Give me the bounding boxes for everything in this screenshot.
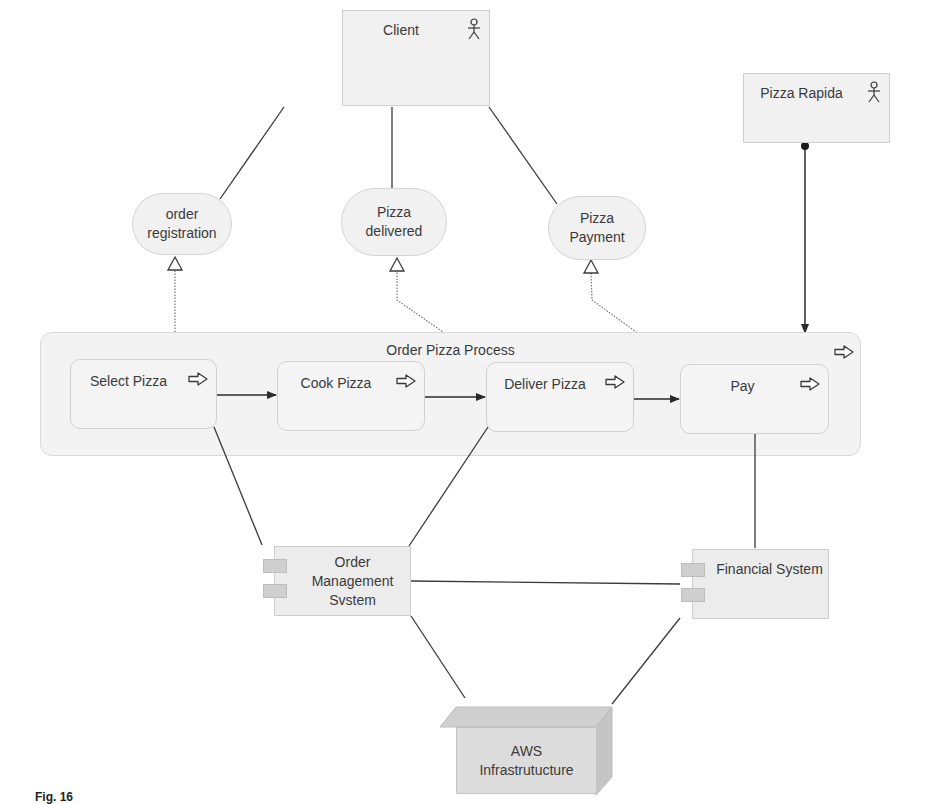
process-step-deliver-pizza[interactable]: Deliver Pizza [486, 362, 634, 432]
association-client-pizza-payment [489, 107, 557, 204]
process-arrow-icon [834, 345, 854, 359]
process-step-pay-label: Pay [681, 378, 804, 394]
component-order-mgmt-line3: Svstem [295, 591, 410, 610]
node-aws-infrastructure[interactable]: AWS Infrastrutucture [456, 727, 597, 794]
component-financial-system[interactable]: Financial System [692, 549, 829, 619]
actor-client-label: Client [343, 22, 459, 38]
process-step-deliver-pizza-label: Deliver Pizza [487, 376, 603, 392]
process-group-label: Order Pizza Process [41, 342, 860, 358]
service-pizza-delivered-line1: Pizza [366, 203, 423, 222]
service-pizza-delivered[interactable]: Pizza delivered [341, 188, 447, 256]
node-aws-line2: Infrastrutucture [479, 761, 573, 780]
actor-stick-figure-icon [867, 81, 881, 103]
service-pizza-payment-line1: Pizza [569, 209, 624, 228]
component-order-mgmt-line1: Order [295, 553, 410, 572]
actor-pizza-rapida[interactable]: Pizza Rapida [743, 73, 890, 143]
component-order-mgmt-line2: Management [295, 572, 410, 591]
process-step-select-pizza-label: Select Pizza [71, 373, 186, 389]
process-arrow-icon [605, 375, 625, 389]
component-order-management-system[interactable]: Order Management Svstem [274, 546, 411, 616]
service-pizza-payment-line2: Payment [569, 228, 624, 247]
component-icon [263, 584, 287, 598]
process-arrow-icon [800, 377, 820, 391]
process-step-cook-pizza-label: Cook Pizza [278, 375, 394, 391]
service-order-registration-line2: registration [147, 224, 216, 243]
association-client-order-registration [220, 107, 284, 199]
component-icon [681, 563, 705, 577]
component-icon [263, 559, 287, 573]
service-pizza-payment[interactable]: Pizza Payment [548, 196, 646, 260]
process-step-select-pizza[interactable]: Select Pizza [70, 359, 217, 429]
component-icon [681, 588, 705, 602]
process-step-cook-pizza[interactable]: Cook Pizza [277, 361, 425, 431]
actor-pizza-rapida-label: Pizza Rapida [744, 85, 859, 101]
process-arrow-icon [396, 374, 416, 388]
service-order-registration[interactable]: order registration [132, 193, 232, 255]
actor-client[interactable]: Client [342, 10, 490, 106]
process-step-pay[interactable]: Pay [680, 364, 829, 434]
service-order-registration-line1: order [147, 205, 216, 224]
node-aws-line1: AWS [479, 742, 573, 761]
figure-caption: Fig. 16 [35, 790, 73, 804]
service-pizza-delivered-line2: delivered [366, 222, 423, 241]
process-arrow-icon [188, 372, 208, 386]
actor-stick-figure-icon [467, 18, 481, 40]
component-financial-label: Financial System [711, 560, 828, 579]
